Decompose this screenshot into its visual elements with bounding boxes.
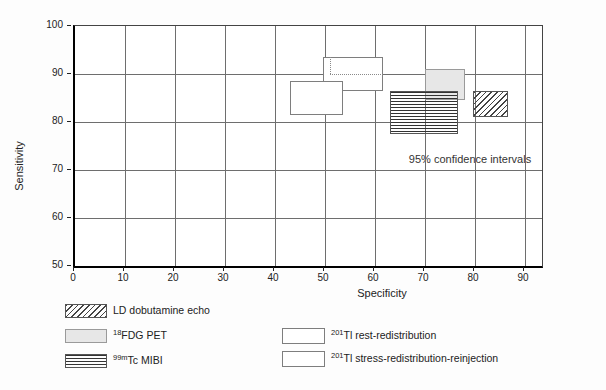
- legend-label-tl-rest-redistribution: 201Tl rest-redistribution: [331, 328, 436, 343]
- gridline-x-10: [125, 26, 126, 266]
- x-tick-label-70: 70: [410, 272, 436, 283]
- y-tick-90: [67, 73, 71, 74]
- y-tick-50: [67, 265, 71, 266]
- figure: 95% confidence intervals Specificity Sen…: [0, 0, 606, 390]
- x-tick-70: [423, 267, 424, 271]
- legend-swatch-tl-stress-redistribution-reinjection: [282, 351, 325, 367]
- legend-label-tc-mibi: 99mTc MIBI: [113, 353, 163, 368]
- gridline-x-90: [525, 26, 526, 266]
- y-tick-100: [67, 25, 71, 26]
- plot-area: 95% confidence intervals: [73, 25, 543, 268]
- ci-box-ld-dobutamine-echo: [473, 91, 508, 117]
- hidden-edge-vertical-201tl-rest-redistribution: [330, 57, 331, 74]
- y-tick-70: [67, 169, 71, 170]
- x-tick-label-60: 60: [360, 272, 386, 283]
- x-tick-label-30: 30: [210, 272, 236, 283]
- legend-label-fdg-pet: 18FDG PET: [113, 328, 167, 343]
- gridline-x-20: [175, 26, 176, 266]
- legend-swatch-tl-rest-redistribution: [282, 328, 325, 344]
- x-tick-label-80: 80: [460, 272, 486, 283]
- y-tick-label-70: 70: [35, 163, 63, 174]
- y-tick-label-60: 60: [35, 211, 63, 222]
- x-tick-0: [73, 267, 74, 271]
- x-tick-10: [123, 267, 124, 271]
- x-tick-30: [223, 267, 224, 271]
- legend-swatch-ld-dobutamine-echo: [65, 304, 107, 318]
- hidden-edge-horizontal-201tl-rest-redistribution: [330, 74, 383, 75]
- x-tick-90: [523, 267, 524, 271]
- x-tick-label-50: 50: [310, 272, 336, 283]
- gridline-x-40: [275, 26, 276, 266]
- x-tick-label-10: 10: [110, 272, 136, 283]
- x-tick-label-20: 20: [160, 272, 186, 283]
- y-tick-label-80: 80: [35, 115, 63, 126]
- ci-box-201tl-stress-redistribution-reinjection: [290, 81, 343, 115]
- legend-swatch-fdg-pet: [65, 329, 107, 343]
- x-tick-label-0: 0: [60, 272, 86, 283]
- gridline-x-80: [475, 26, 476, 266]
- gridline-x-70: [425, 26, 426, 266]
- gridline-y-70: [75, 170, 542, 171]
- x-tick-20: [173, 267, 174, 271]
- gridline-y-90: [75, 74, 542, 75]
- legend-swatch-tc-mibi: [65, 354, 107, 368]
- y-tick-label-50: 50: [35, 259, 63, 270]
- x-tick-label-40: 40: [260, 272, 286, 283]
- x-tick-60: [373, 267, 374, 271]
- x-tick-label-90: 90: [510, 272, 536, 283]
- legend-label-ld-dobutamine-echo: LD dobutamine echo: [113, 303, 210, 318]
- ci-box-99mtc-mibi: [390, 91, 458, 134]
- gridline-y-60: [75, 218, 542, 219]
- y-tick-80: [67, 121, 71, 122]
- y-tick-label-90: 90: [35, 67, 63, 78]
- legend-label-tl-stress-redistribution-reinjection: 201Tl stress-redistribution-reinjection: [331, 351, 498, 366]
- x-tick-80: [473, 267, 474, 271]
- x-axis-title: Specificity: [340, 287, 424, 299]
- y-axis-title: Sensitivity: [13, 106, 27, 226]
- y-tick-label-100: 100: [35, 19, 63, 30]
- x-tick-50: [323, 267, 324, 271]
- gridline-y-80: [75, 122, 542, 123]
- y-tick-60: [67, 217, 71, 218]
- gridline-x-30: [225, 26, 226, 266]
- x-tick-40: [273, 267, 274, 271]
